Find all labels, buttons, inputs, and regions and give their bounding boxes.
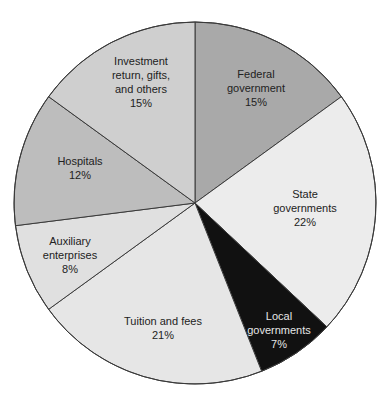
label-percent: 22% [294, 216, 316, 228]
label-percent: 7% [271, 338, 287, 350]
label-percent: 15% [130, 97, 152, 109]
label-percent: 15% [245, 96, 267, 108]
label-line: and others [115, 83, 167, 95]
label-line: Hospitals [57, 155, 103, 167]
label-line: enterprises [43, 249, 98, 261]
label-line: governments [247, 324, 311, 336]
label-percent: 8% [62, 263, 78, 275]
label-line: return, gifts, [112, 69, 170, 81]
label-line: governments [273, 202, 337, 214]
label-line: Local [266, 310, 292, 322]
label-percent: 12% [69, 169, 91, 181]
pie-chart: Federalgovernment15%Stategovernments22%L… [0, 0, 387, 398]
label-line: State [292, 188, 318, 200]
label-line: Federal [237, 68, 274, 80]
label-line: Auxiliary [49, 235, 91, 247]
label-line: government [227, 82, 285, 94]
label-line: Tuition and fees [124, 315, 202, 327]
label-percent: 21% [152, 329, 174, 341]
label-line: Investment [114, 55, 168, 67]
